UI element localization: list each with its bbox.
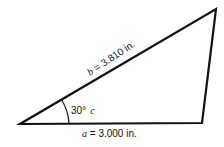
triangle-outline xyxy=(20,9,216,124)
angle-label: 30°c xyxy=(71,105,95,116)
angle-arc xyxy=(61,99,69,123)
triangle-diagram: 30°c b = 3.810 in. a = 3.000 in. xyxy=(0,0,224,147)
side-a-label: a = 3.000 in. xyxy=(82,128,137,139)
triangle-svg: 30°c b = 3.810 in. a = 3.000 in. xyxy=(0,0,224,147)
